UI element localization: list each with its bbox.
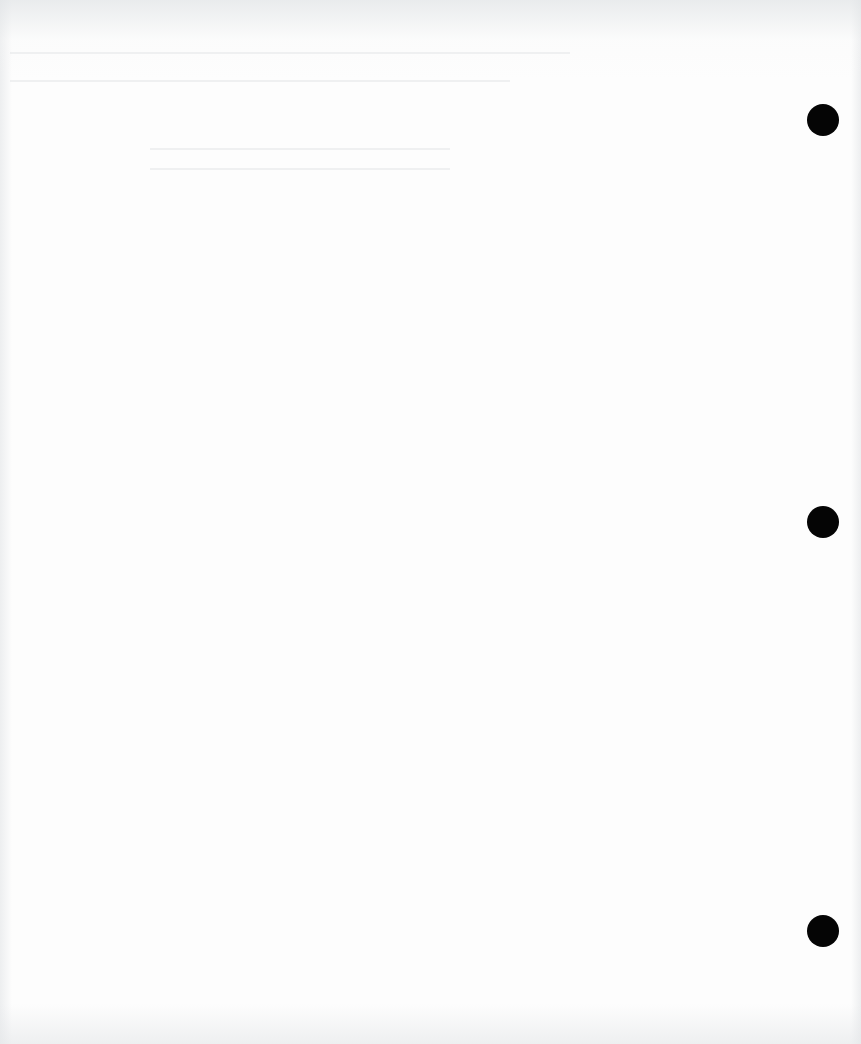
- punch-hole-middle: [807, 506, 839, 538]
- scanned-page: [0, 0, 861, 1044]
- punch-hole-bottom: [807, 915, 839, 947]
- bleed-through-line: [150, 148, 450, 150]
- punch-hole-top: [807, 104, 839, 136]
- bleed-through-line: [10, 80, 510, 82]
- bleed-through-line: [150, 168, 450, 170]
- bleed-through-line: [10, 52, 570, 54]
